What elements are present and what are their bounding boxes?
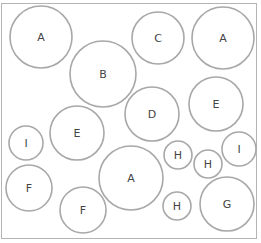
- circle-i: I: [9, 126, 43, 160]
- circle-label: H: [204, 158, 212, 171]
- circle-a: A: [10, 6, 72, 68]
- circle-i: I: [222, 132, 256, 166]
- circle-a: A: [99, 146, 163, 210]
- circle-b: B: [70, 41, 136, 107]
- circle-e: E: [189, 77, 243, 131]
- circle-label: F: [80, 204, 86, 217]
- circle-label: E: [213, 98, 220, 111]
- circle-label: F: [26, 182, 32, 195]
- circle-label: A: [37, 31, 45, 44]
- circle-diagram: ABCADEIEFAHHIFHG: [0, 0, 261, 243]
- circle-label: G: [223, 198, 232, 211]
- circle-label: A: [127, 172, 135, 185]
- circle-label: A: [219, 32, 227, 45]
- circle-label: H: [173, 200, 181, 213]
- circle-label: D: [148, 108, 156, 121]
- circle-a: A: [192, 7, 254, 69]
- circle-h: H: [163, 192, 191, 220]
- circle-label: H: [174, 149, 182, 162]
- circle-label: I: [24, 137, 27, 150]
- circle-label: E: [74, 127, 81, 140]
- circle-d: D: [125, 87, 179, 141]
- circle-f: F: [6, 165, 52, 211]
- circle-label: I: [237, 143, 240, 156]
- circle-e: E: [50, 106, 104, 160]
- circle-h: H: [194, 150, 222, 178]
- circle-f: F: [60, 187, 106, 233]
- circle-g: G: [200, 177, 254, 231]
- circle-label: B: [99, 68, 107, 81]
- circle-h: H: [164, 141, 192, 169]
- circle-c: C: [132, 12, 184, 64]
- circle-label: C: [154, 32, 162, 45]
